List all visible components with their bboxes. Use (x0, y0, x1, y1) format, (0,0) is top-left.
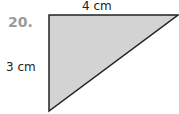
triangle-shape (49, 15, 178, 111)
top-side-label: 4 cm (82, 0, 112, 13)
right-triangle-figure (0, 0, 179, 114)
left-side-label: 3 cm (6, 60, 36, 74)
